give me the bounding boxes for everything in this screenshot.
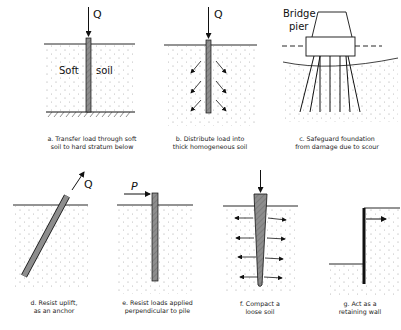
caption-a: a. Transfer load through soft soil to ha… [32, 135, 152, 151]
pier-label: pier [289, 21, 308, 32]
load-label-b: Q [214, 8, 223, 21]
caption-e: e. Resist loads applied perpendicular to… [110, 299, 205, 315]
panel-b [164, 7, 257, 126]
caption-c: c. Safeguard foundation from damage due … [282, 135, 392, 151]
panel-d [13, 172, 88, 288]
soft-label: Soft [59, 65, 79, 76]
caption-b: b. Distribute load into thick homogeneou… [160, 135, 260, 151]
bridge-label: Bridge [283, 8, 316, 19]
pile-cap [306, 37, 355, 56]
pile [206, 40, 211, 113]
pile [152, 193, 158, 281]
soil-label: soil [96, 65, 113, 76]
load-label-d: Q [84, 178, 93, 191]
arrow-up-icon [72, 172, 84, 190]
sheet-pile-wall [363, 208, 366, 284]
load-label-e: P [131, 180, 138, 193]
panel-g [329, 208, 401, 295]
panel-e [117, 193, 193, 294]
load-label-a: Q [93, 8, 102, 21]
panel-f [223, 170, 298, 291]
pile [86, 38, 91, 112]
caption-f: f. Compact a loose soil [225, 300, 295, 316]
caption-g: g. Act as a retaining wall [325, 300, 395, 316]
panel-a [44, 7, 135, 117]
pile-uses-diagram [0, 0, 401, 330]
caption-d: d. Resist uplift, as an anchor [14, 299, 94, 315]
